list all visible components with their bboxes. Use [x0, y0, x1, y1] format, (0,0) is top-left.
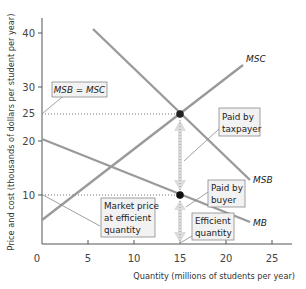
x-axis-title: Quantity (millions of students per year) [133, 271, 295, 281]
equilibrium-point [176, 110, 184, 118]
callout-efficient-line1: Efficient [195, 216, 231, 226]
msb-label: MSB [253, 175, 273, 185]
y-tick-30: 30 [22, 82, 35, 93]
callout-buyer-line1: Paid by [211, 183, 243, 193]
y-tick-25: 25 [22, 108, 35, 119]
y-tick-10: 10 [22, 190, 35, 201]
x-tick-10: 10 [128, 253, 141, 264]
msb-curve [93, 29, 250, 180]
arrow-paid-by-buyer [174, 200, 186, 243]
msc-label: MSC [246, 54, 266, 64]
market-price-point [176, 191, 184, 199]
mb-label: MB [253, 218, 267, 228]
x-tick-20: 20 [220, 253, 233, 264]
y-ticks [38, 33, 42, 195]
callout-leader-market [43, 195, 100, 226]
y-tick-40: 40 [22, 28, 35, 39]
x-tick-15: 15 [174, 253, 187, 264]
callout-buyer-line2: buyer [211, 195, 237, 205]
callout-taxpayer-line2: taxpayer [222, 124, 262, 134]
y-axis-title: Price and cost (thousands of dollars per… [6, 14, 16, 251]
callout-taxpayer-line1: Paid by [222, 112, 254, 122]
chart: 10 20 25 30 40 0 5 10 15 20 25 Quantity … [0, 0, 306, 289]
callout-efficient-line2: quantity [195, 228, 232, 238]
y-tick-20: 20 [22, 136, 35, 147]
callout-market-line2: at efficient [104, 213, 152, 223]
callout-equilibrium: MSB = MSC [54, 85, 106, 95]
callout-market-line1: Market price [104, 201, 159, 211]
x-tick-5: 5 [85, 253, 91, 264]
x-tick-25: 25 [266, 253, 279, 264]
x-tick-0: 0 [34, 253, 40, 264]
callout-market-line3: quantity [104, 225, 141, 235]
